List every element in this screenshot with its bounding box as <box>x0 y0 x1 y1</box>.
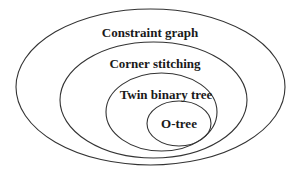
ellipse-twin-binary-tree <box>106 73 217 151</box>
nested-set-diagram: Constraint graph Corner stitching Twin b… <box>0 0 301 175</box>
label-corner-stitching: Corner stitching <box>109 56 201 71</box>
label-twin-binary-tree: Twin binary tree <box>120 87 213 102</box>
label-o-tree: O-tree <box>161 116 197 131</box>
label-constraint-graph: Constraint graph <box>102 25 199 40</box>
